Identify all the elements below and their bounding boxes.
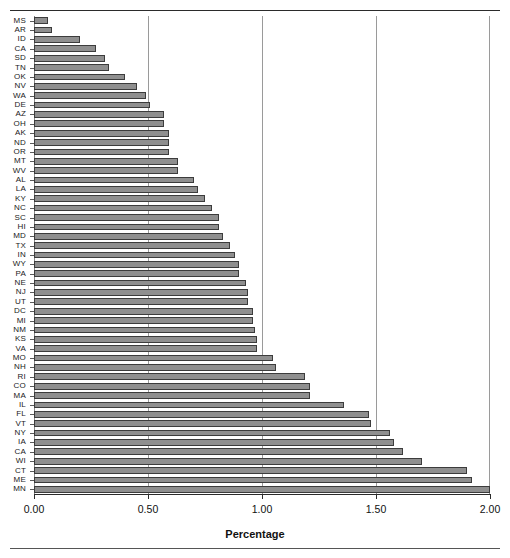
bar (34, 336, 257, 343)
y-tick-mark (30, 264, 34, 265)
bar-row (34, 411, 490, 418)
bar-row (34, 477, 490, 484)
bar (34, 195, 205, 202)
bar-row (34, 242, 490, 249)
y-tick-label: IN (18, 251, 26, 259)
bar-series (34, 16, 490, 494)
bar (34, 364, 276, 371)
bar-row (34, 298, 490, 305)
y-tick-label: ID (18, 35, 26, 43)
y-tick-mark (30, 114, 34, 115)
bar-row (34, 392, 490, 399)
bar-row (34, 74, 490, 81)
y-tick-mark (30, 283, 34, 284)
y-tick-label: OK (14, 73, 26, 81)
bar (34, 36, 80, 43)
y-tick-mark (30, 321, 34, 322)
bar (34, 420, 371, 427)
bar (34, 92, 146, 99)
bar-row (34, 167, 490, 174)
y-tick-label: NY (14, 429, 26, 437)
y-tick-mark (30, 161, 34, 162)
y-tick-mark (30, 367, 34, 368)
bar-row (34, 336, 490, 343)
y-tick-mark (30, 442, 34, 443)
bar (34, 45, 96, 52)
bar-row (34, 92, 490, 99)
bar (34, 167, 178, 174)
bar (34, 308, 253, 315)
bar (34, 158, 178, 165)
bar (34, 177, 194, 184)
y-tick-label: MD (13, 232, 26, 240)
bar-row (34, 308, 490, 315)
bar (34, 214, 219, 221)
bar-row (34, 83, 490, 90)
bar-row (34, 102, 490, 109)
bar-row (34, 195, 490, 202)
y-axis: MSARIDCASDTNOKNVWADEAZOHAKNDORMTWVALLAKY… (0, 16, 34, 494)
bar (34, 149, 169, 156)
x-tick-mark (34, 494, 35, 499)
bar-row (34, 130, 490, 137)
bar (34, 252, 235, 259)
bar (34, 298, 248, 305)
x-tick-mark (490, 494, 491, 499)
bar-row (34, 383, 490, 390)
bar-row (34, 17, 490, 24)
bar-row (34, 177, 490, 184)
y-tick-mark (30, 39, 34, 40)
y-tick-label: WV (13, 167, 26, 175)
bar (34, 186, 198, 193)
y-tick-mark (30, 414, 34, 415)
bar-row (34, 27, 490, 34)
y-tick-mark (30, 96, 34, 97)
bar (34, 83, 137, 90)
x-tick-label: 0.50 (138, 503, 158, 515)
y-tick-label: LA (16, 185, 26, 193)
bar (34, 345, 257, 352)
y-tick-label: MI (17, 317, 26, 325)
bar-row (34, 420, 490, 427)
bar (34, 205, 212, 212)
y-tick-label: MN (13, 485, 26, 493)
y-tick-label: AZ (15, 110, 26, 118)
bar (34, 17, 48, 24)
y-tick-mark (30, 349, 34, 350)
y-tick-mark (30, 133, 34, 134)
y-tick-mark (30, 86, 34, 87)
bar-row (34, 64, 490, 71)
y-tick-mark (30, 358, 34, 359)
y-tick-label: KY (15, 195, 26, 203)
y-tick-mark (30, 236, 34, 237)
y-tick-mark (30, 405, 34, 406)
bottom-horizontal-rule (10, 548, 500, 549)
y-tick-label: KS (15, 335, 26, 343)
bar-row (34, 139, 490, 146)
y-tick-mark (30, 433, 34, 434)
x-tick-label: 2.00 (480, 503, 500, 515)
bar (34, 64, 109, 71)
bar (34, 280, 246, 287)
y-tick-mark (30, 311, 34, 312)
bar-row (34, 45, 490, 52)
y-tick-mark (30, 199, 34, 200)
y-tick-label: WY (13, 260, 26, 268)
y-tick-mark (30, 396, 34, 397)
bar (34, 317, 253, 324)
y-tick-label: IA (18, 438, 26, 446)
bar (34, 411, 369, 418)
y-tick-mark (30, 171, 34, 172)
y-tick-label: NV (14, 82, 26, 90)
x-tick-label: 0.00 (24, 503, 44, 515)
y-tick-label: ME (14, 476, 26, 484)
y-tick-label: WI (16, 457, 26, 465)
bar-row (34, 270, 490, 277)
bar-row (34, 364, 490, 371)
y-tick-label: CA (14, 45, 26, 53)
y-tick-label: MT (14, 157, 26, 165)
y-tick-mark (30, 189, 34, 190)
bar (34, 74, 125, 81)
bar (34, 486, 490, 493)
bar-row (34, 252, 490, 259)
